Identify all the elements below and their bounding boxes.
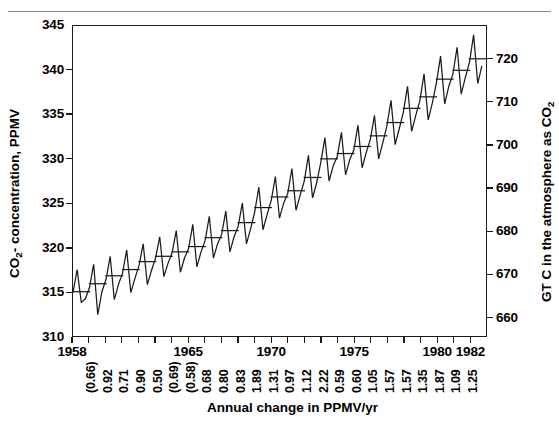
annual-change-label: 1.35	[417, 369, 430, 393]
annual-change-label: 1.09	[450, 369, 463, 393]
annual-change-label: 0.92	[102, 369, 115, 393]
annual-change-label: (0.66)	[85, 362, 98, 393]
x-axis-tick-mark	[221, 337, 222, 343]
x-axis-tick-mark	[287, 337, 288, 343]
x-axis-tick-mark	[71, 337, 72, 343]
x-axis-tick-mark	[138, 337, 139, 343]
x-axis-year-label: 1958	[50, 345, 94, 359]
y-axis-left-tick-label: 320	[22, 241, 64, 255]
annual-change-label: (0.69)	[168, 362, 181, 393]
co2-monthly-line	[73, 35, 482, 315]
y-axis-left-tick-mark	[66, 113, 72, 114]
annual-change-label: 1.57	[401, 369, 414, 393]
y-axis-right-tick-label: 690	[496, 181, 518, 195]
y-axis-left-tick-label: 310	[22, 330, 64, 344]
y-axis-right-tick-label: 720	[496, 52, 518, 66]
co2-curve-svg	[73, 26, 486, 336]
annual-change-label: 0.50	[152, 369, 165, 393]
x-axis-tick-mark	[271, 337, 272, 343]
y-axis-left-tick-label: 325	[22, 196, 64, 210]
x-axis-tick-mark	[204, 337, 205, 343]
y-axis-right-tick-label: 700	[496, 138, 518, 152]
annual-change-label: 0.97	[284, 369, 297, 393]
y-axis-left-tick-mark	[66, 247, 72, 248]
x-axis-tick-mark	[254, 337, 255, 343]
x-axis-tick-mark	[121, 337, 122, 343]
annual-change-label: 1.31	[268, 369, 281, 393]
annual-change-label: 1.05	[367, 369, 380, 393]
y-axis-left-tick-label: 315	[22, 285, 64, 299]
annual-change-label: 1.89	[251, 369, 264, 393]
annual-change-label: (0.58)	[185, 362, 198, 393]
y-axis-right-tick-mark	[487, 144, 493, 145]
x-axis-tick-mark	[337, 337, 338, 343]
x-axis-tick-mark	[453, 337, 454, 343]
x-axis-tick-mark	[171, 337, 172, 343]
annual-change-label: 0.68	[201, 369, 214, 393]
x-axis-tick-mark	[188, 337, 189, 343]
x-axis-tick-mark	[320, 337, 321, 343]
x-axis-tick-mark	[354, 337, 355, 343]
x-axis-year-label: 1982	[448, 345, 492, 359]
y-axis-right-tick-mark	[487, 231, 493, 232]
plot-area	[72, 25, 487, 337]
y-axis-left-tick-mark	[66, 158, 72, 159]
annual-change-label: 0.59	[334, 369, 347, 393]
y-axis-right-tick-mark	[487, 187, 493, 188]
chart-figure: CO2- concentration, PPMV GT C in the atm…	[0, 0, 559, 425]
y-axis-right-tick-mark	[487, 101, 493, 102]
y-axis-left-tick-label: 345	[22, 18, 64, 32]
annual-change-label: 1.57	[384, 369, 397, 393]
annual-change-label: 0.80	[218, 369, 231, 393]
x-axis-tick-mark	[237, 337, 238, 343]
y-axis-left-tick-mark	[66, 69, 72, 70]
annual-change-label: 0.71	[118, 369, 131, 393]
annual-change-label: 1.12	[301, 369, 314, 393]
x-axis-year-label: 1965	[166, 345, 210, 359]
x-axis-tick-mark	[387, 337, 388, 343]
annual-change-label: 0.60	[351, 369, 364, 393]
x-axis-tick-mark	[437, 337, 438, 343]
annual-change-label: 1.87	[434, 369, 447, 393]
annual-change-label: 0.90	[135, 369, 148, 393]
x-axis-tick-mark	[420, 337, 421, 343]
y-axis-left-tick-mark	[66, 203, 72, 204]
annual-change-label: 0.83	[235, 369, 248, 393]
x-axis-title: Annual change in PPMV/yr	[207, 401, 378, 415]
x-axis-year-label: 1970	[249, 345, 293, 359]
y-axis-right-tick-mark	[487, 58, 493, 59]
x-axis-tick-mark	[403, 337, 404, 343]
y-axis-left-tick-label: 340	[22, 63, 64, 77]
x-axis-tick-mark	[304, 337, 305, 343]
y-axis-left-title: CO2- concentration, PPMV	[8, 256, 23, 278]
x-axis-tick-mark	[88, 337, 89, 343]
y-axis-right-tick-label: 710	[496, 95, 518, 109]
y-axis-right-tick-label: 680	[496, 224, 518, 238]
annual-mean-markers	[72, 59, 486, 292]
y-axis-right-tick-label: 670	[496, 267, 518, 281]
y-axis-left-tick-mark	[66, 292, 72, 293]
x-axis-tick-mark	[105, 337, 106, 343]
x-axis-year-label: 1975	[332, 345, 376, 359]
annual-change-label: 2.22	[318, 369, 331, 393]
y-axis-left-tick-label: 335	[22, 107, 64, 121]
x-axis-tick-mark	[470, 337, 471, 343]
y-axis-left-tick-label: 330	[22, 152, 64, 166]
y-axis-right-tick-mark	[487, 317, 493, 318]
y-axis-right-tick-mark	[487, 274, 493, 275]
y-axis-right-tick-label: 660	[496, 311, 518, 325]
x-axis-tick-mark	[154, 337, 155, 343]
x-axis-tick-mark	[370, 337, 371, 343]
annual-change-label: 1.25	[467, 369, 480, 393]
y-axis-right-title: GT C in the atmosphere as CO2	[540, 102, 555, 302]
